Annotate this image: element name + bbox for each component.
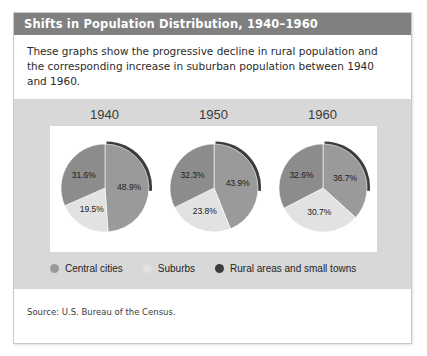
intro-section: These graphs show the progressive declin… — [14, 35, 411, 99]
year-labels-row: 1940 1950 1960 — [50, 103, 377, 125]
legend-swatch-suburbs-icon — [143, 264, 152, 273]
source-footer: Source: U.S. Bureau of the Census. — [14, 289, 411, 344]
intro-paragraph: These graphs show the progressive declin… — [27, 44, 395, 89]
pie-chart-1960: 36.7%30.7%32.6% — [274, 140, 372, 238]
legend-item-rural: Rural areas and small towns — [215, 263, 356, 274]
infographic-card: Shifts in Population Distribution, 1940–… — [13, 12, 412, 344]
legend-swatch-central-cities-icon — [50, 264, 59, 273]
page-title: Shifts in Population Distribution, 1940–… — [24, 17, 318, 31]
legend-item-central-cities: Central cities — [50, 263, 123, 274]
pie-chart-1940: 48.9%19.5%31.6% — [56, 140, 154, 238]
legend-label-suburbs: Suburbs — [158, 263, 195, 274]
chart-legend: Central cities Suburbs Rural areas and s… — [50, 258, 390, 278]
pie-plot-area: 48.9%19.5%31.6% 43.9%23.8%32.3% 36.7%30.… — [50, 126, 377, 252]
pie-graphic — [165, 140, 263, 238]
legend-swatch-rural-icon — [215, 264, 224, 273]
charts-panel: 1940 1950 1960 48.9%19.5%31.6% 43.9%23.8… — [14, 99, 411, 289]
legend-item-suburbs: Suburbs — [143, 263, 195, 274]
year-label-1940: 1940 — [50, 107, 159, 122]
pie-graphic — [56, 140, 154, 238]
source-text: Source: U.S. Bureau of the Census. — [27, 307, 176, 317]
screenshot-root: Shifts in Population Distribution, 1940–… — [0, 0, 427, 356]
pie-slice — [105, 144, 149, 232]
pie-chart-1950: 43.9%23.8%32.3% — [165, 140, 263, 238]
pie-graphic — [274, 140, 372, 238]
card-title-bar: Shifts in Population Distribution, 1940–… — [14, 13, 411, 35]
legend-label-rural: Rural areas and small towns — [230, 263, 356, 274]
year-label-1950: 1950 — [159, 107, 268, 122]
legend-label-central-cities: Central cities — [65, 263, 123, 274]
year-label-1960: 1960 — [268, 107, 377, 122]
